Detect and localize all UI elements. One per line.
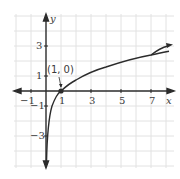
x-tick-label: 1 [59,95,65,106]
y-axis-down-arrow-icon [44,161,49,168]
x-axis-right-arrow-icon [167,89,174,94]
point-label: (1, 0) [47,64,74,75]
x-axis-left-arrow-icon [14,89,21,94]
y-axis-label: y [49,13,56,24]
y-tick-label: −3 [30,130,45,141]
x-axis-label: x [166,95,172,106]
x-tick-label: 3 [89,95,95,106]
point-1-0 [58,88,63,93]
y-tick-label: 3 [36,40,42,51]
y-axis-up-arrow-icon [44,14,49,21]
x-axis [14,89,174,94]
annotation-arrow-icon [59,84,63,88]
y-tick-label: 1 [36,70,42,81]
x-tick-label: 5 [119,95,125,106]
log-graph: (1, 0) x y −1 1 3 5 7 3 1 −1 −3 [0,0,180,179]
y-tick-label: −1 [30,100,45,111]
x-tick-label: 7 [149,95,155,106]
